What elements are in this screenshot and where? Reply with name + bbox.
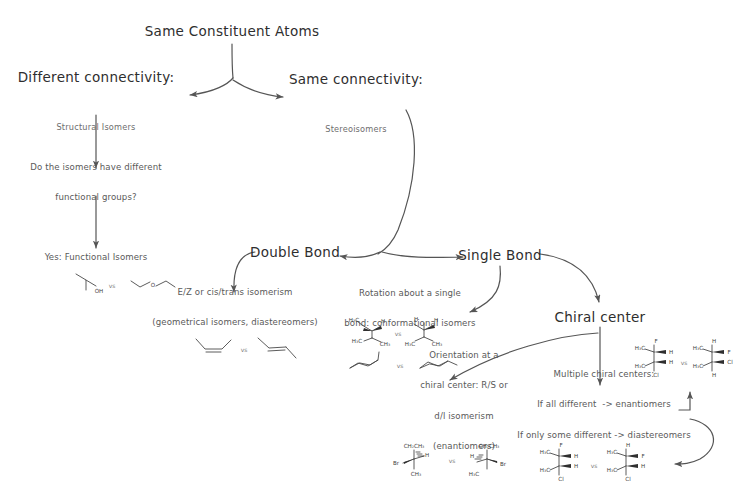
newman-left-label-0: H₃C	[349, 317, 359, 323]
vs-functional: vs	[109, 282, 116, 289]
vs-newman: vs	[395, 330, 402, 337]
chiral-bottom-right-4: H₃C	[607, 467, 617, 473]
node-geometric: E/Z or cis/trans isomerism (geometrical …	[152, 229, 317, 386]
node-same-connectivity: Same connectivity: Stereoisomers	[289, 0, 423, 210]
orientation-line-1: Orientation at a	[420, 350, 508, 360]
chiral-bottom-right-0: H₃C	[607, 449, 617, 455]
chiral-top-right-0: H₃C	[693, 345, 703, 351]
newman-right-label-3: H₃C	[405, 341, 415, 347]
multiple-chiral-line-3: If only some different -> diastereomers	[517, 430, 690, 440]
chiral-top-right-1: H	[712, 338, 716, 344]
chiral-bottom-left-3: H	[574, 463, 578, 469]
enantiomer-left-label-1: Br	[393, 460, 399, 466]
multiple-chiral-line-2: If all different -> enantiomers	[517, 400, 690, 410]
chiral-bottom-right-3: H	[641, 463, 645, 469]
chiral-top-left-3: H	[669, 359, 673, 365]
enantiomer-left-label-2: H	[425, 452, 429, 458]
chiral-top-left-0: H₃C	[635, 345, 645, 351]
enantiomer-right-label-0: CH₂CH₃	[479, 443, 500, 449]
enantiomer-right-label-2: H₃C	[469, 471, 479, 477]
geometric-line-1: E/Z or cis/trans isomerism	[152, 287, 317, 297]
flowchart-canvas: Same Constituent Atoms Different connect…	[0, 0, 751, 498]
chiral-top-left-5: Cl	[653, 372, 658, 378]
node-orientation: Orientation at a chiral center: R/S or d…	[420, 292, 508, 498]
newman-left-label-1: H₃C	[352, 338, 362, 344]
chiral-top-right-4: H₃C	[693, 363, 703, 369]
chiral-bottom-left-4: H₃C	[540, 467, 550, 473]
question-line-2: functional groups?	[30, 192, 161, 202]
chiral-top-right-2: F	[727, 349, 730, 355]
node-functional-isomers: Yes: Functional Isomers	[45, 252, 148, 262]
chiral-top-left-4: H₃C	[635, 363, 645, 369]
newman-left-label-2: H	[381, 318, 385, 324]
chiral-bottom-left-2: H	[574, 453, 578, 459]
node-question-functional: Do the isomers have different functional…	[30, 104, 161, 261]
chiral-bottom-right-5: Cl	[625, 476, 630, 482]
chiral-top-left-2: H	[669, 349, 673, 355]
vs-enantiomer: vs	[449, 457, 456, 464]
chiral-bottom-left-5: Cl	[558, 476, 563, 482]
chiral-bottom-right-2: F	[641, 453, 644, 459]
enantiomer-left-label-3: CH₃	[411, 471, 421, 477]
vs-chair: vs	[397, 362, 404, 369]
newman-right-label-0: H	[414, 316, 418, 322]
node-same-connectivity-sublabel: Stereoisomers	[289, 125, 423, 135]
vs-chiral-top: vs	[681, 359, 688, 366]
chiral-top-right-3: Cl	[727, 359, 732, 365]
newman-left-label-4: CH₃	[380, 341, 390, 347]
orientation-line-3: d/l isomerism	[420, 411, 508, 421]
chiral-bottom-left-1: F	[559, 442, 562, 448]
enantiomer-left-label-0: CH₂CH₃	[404, 443, 425, 449]
chiral-top-left-1: F	[654, 338, 657, 344]
orientation-line-2: chiral center: R/S or	[420, 381, 508, 391]
enantiomer-right-label-3: Br	[500, 461, 506, 467]
chiral-bottom-right-1: H	[626, 442, 630, 448]
multiple-chiral-line-1: Multiple chiral centers:	[517, 370, 690, 380]
node-same-connectivity-label: Same connectivity:	[289, 71, 423, 87]
node-different-connectivity-label: Different connectivity:	[18, 69, 175, 85]
chiral-top-right-5: H	[712, 372, 716, 378]
question-line-1: Do the isomers have different	[30, 162, 161, 172]
chiral-bottom-left-0: H₃C	[540, 449, 550, 455]
vs-geometric: vs	[241, 346, 248, 353]
geometric-line-2: (geometrical isomers, diastereomers)	[152, 317, 317, 327]
label-isopropanol-oh: OH	[95, 288, 104, 294]
vs-chiral-bottom: vs	[591, 462, 598, 469]
enantiomer-right-label-1: H	[470, 453, 474, 459]
